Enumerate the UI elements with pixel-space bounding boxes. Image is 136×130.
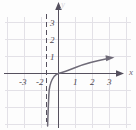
y-tick-label-3: 3: [50, 19, 55, 28]
y-tick-label-1: 1: [50, 53, 55, 62]
coordinate-plane: [0, 0, 136, 130]
x-tick-label-neg2: -2: [36, 78, 44, 87]
y-axis: [55, 2, 62, 128]
y-axis-label: y: [61, 0, 65, 9]
x-axis-label: x: [129, 68, 133, 77]
y-tick-label-2: 2: [50, 36, 55, 45]
graph-figure: -3 -2 1 2 3 1 2 3 x y: [0, 0, 136, 130]
x-tick-label-2: 2: [90, 78, 95, 87]
x-tick-label-1: 1: [73, 78, 78, 87]
grid-lines: [5, 17, 131, 128]
x-tick-label-neg3: -3: [19, 78, 27, 87]
x-tick-label-3: 3: [107, 78, 112, 87]
